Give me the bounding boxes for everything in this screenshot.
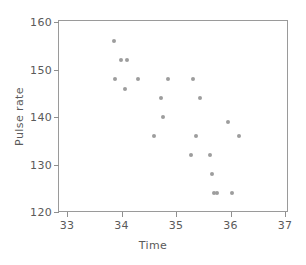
x-tick-label: 34 — [114, 219, 129, 232]
y-tick-mark — [54, 117, 59, 118]
data-point — [215, 191, 219, 195]
y-tick-mark — [54, 70, 59, 71]
data-point — [119, 58, 123, 62]
x-tick-mark — [231, 212, 232, 217]
data-point — [191, 77, 195, 81]
x-tick-label: 36 — [223, 219, 238, 232]
data-point — [208, 153, 212, 157]
data-point — [123, 87, 127, 91]
data-point — [136, 77, 140, 81]
data-point — [112, 39, 116, 43]
data-point — [230, 191, 234, 195]
x-tick-label: 35 — [169, 219, 184, 232]
data-point — [189, 153, 193, 157]
y-tick-mark — [54, 212, 59, 213]
data-point — [194, 134, 198, 138]
y-tick-mark — [54, 22, 59, 23]
x-tick-label: 33 — [60, 219, 75, 232]
y-tick-mark — [54, 165, 59, 166]
data-point — [226, 120, 230, 124]
data-point — [237, 134, 241, 138]
y-axis-label: Pulse rate — [13, 87, 26, 146]
data-point — [210, 172, 214, 176]
x-tick-mark — [67, 212, 68, 217]
scatter-plot-figure: 3334353637 120130140150160 Time Pulse ra… — [0, 0, 306, 265]
data-point — [166, 77, 170, 81]
data-point — [198, 96, 202, 100]
x-tick-label: 37 — [278, 219, 293, 232]
x-axis-label: Time — [0, 239, 306, 252]
x-tick-mark — [122, 212, 123, 217]
x-tick-mark — [176, 212, 177, 217]
x-tick-mark — [285, 212, 286, 217]
data-point — [161, 115, 165, 119]
data-point — [113, 77, 117, 81]
data-point — [152, 134, 156, 138]
data-point — [125, 58, 129, 62]
data-point — [159, 96, 163, 100]
y-axis-label-wrapper: Pulse rate — [8, 0, 30, 232]
plot-data-area — [58, 20, 288, 212]
